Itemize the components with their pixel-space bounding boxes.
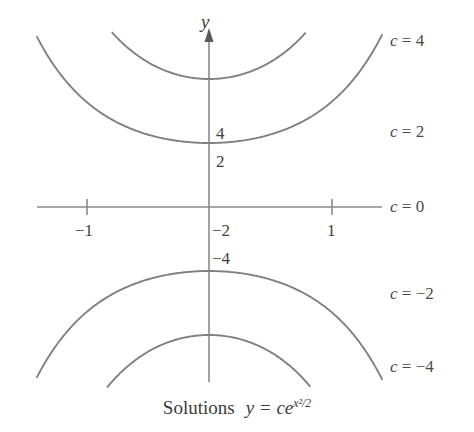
curve-label-c-0: c = 0 <box>390 198 424 215</box>
curve-label-c-0-symbol: c <box>390 197 398 216</box>
curve-label-c-2-symbol: c <box>390 122 398 141</box>
x-tick-label-1: 1 <box>327 222 336 239</box>
curve-label-c-minus-2-value: −2 <box>416 284 434 303</box>
curve-label-c-2-equals: = <box>402 122 412 141</box>
caption-formula-base: y = ce <box>246 397 294 418</box>
curve-label-c-minus-4-equals: = <box>402 357 412 376</box>
curve-label-c-minus-4-value: −4 <box>416 357 434 376</box>
caption-formula: y = cex²/2 <box>246 397 312 418</box>
x-tick-label-minus-1: −1 <box>75 222 93 239</box>
y-tick-label-minus-2: −2 <box>212 222 230 239</box>
y-tick-label-minus-4: −4 <box>212 250 230 267</box>
solution-curves-figure: y 4 2 −2 −4 −1 1 c = 4 c = 2 c = 0 c = −… <box>0 0 474 432</box>
curve-label-c-4-symbol: c <box>390 31 398 50</box>
caption-word: Solutions <box>163 397 235 418</box>
figure-caption: Solutionsy = cex²/2 <box>0 397 474 419</box>
curve-label-c-0-equals: = <box>402 197 412 216</box>
curve-label-c-0-value: 0 <box>416 197 425 216</box>
curve-label-c-4-equals: = <box>402 31 412 50</box>
curve-label-c-4-value: 4 <box>416 31 425 50</box>
curve-label-c-minus-4-symbol: c <box>390 357 398 376</box>
curve-label-c-minus-2-equals: = <box>402 284 412 303</box>
curve-label-c-2: c = 2 <box>390 123 424 140</box>
curve-label-c-minus-2: c = −2 <box>390 285 434 302</box>
y-tick-label-4: 4 <box>216 125 225 142</box>
curve-label-c-minus-4: c = −4 <box>390 358 434 375</box>
y-tick-label-2: 2 <box>216 153 225 170</box>
curve-label-c-minus-2-symbol: c <box>390 284 398 303</box>
curve-label-c-4: c = 4 <box>390 32 424 49</box>
caption-formula-exponent: x²/2 <box>293 397 311 410</box>
y-axis-label: y <box>201 12 209 31</box>
curve-label-c-2-value: 2 <box>416 122 425 141</box>
axes-group <box>37 28 382 382</box>
